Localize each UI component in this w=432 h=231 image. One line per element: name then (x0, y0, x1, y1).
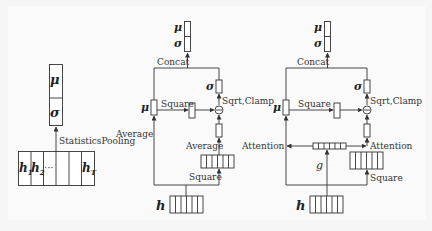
panel3-square-bottom-label: Square (370, 173, 403, 183)
h2-symbol: h2 (31, 162, 45, 179)
panel3-shapes (283, 22, 383, 214)
panel3-attention-right-label: Attention (370, 141, 412, 151)
panel2-square-top-label: Square (161, 99, 194, 109)
panel1-mu-symbol: μ (50, 73, 60, 86)
panel2-output-sigma: σ (174, 38, 182, 49)
panel2-sigma-label: σ (206, 81, 214, 92)
pooling-diagram: μ σ StatisticsPooling h1 h2 ··· hT μ σ C… (0, 0, 432, 231)
h1-base: h (19, 161, 28, 175)
panel3-g-label: g (316, 160, 323, 171)
panel3-output-sigma: σ (314, 38, 322, 49)
diagram-lines (0, 0, 432, 231)
panel2-average-right-label: Average (186, 141, 223, 151)
hT-symbol: hT (82, 162, 96, 179)
panel2-mu-label: μ (141, 102, 149, 113)
panel3-attention-left-label: Attention (242, 141, 284, 151)
hT-base: h (82, 161, 91, 175)
panel2-shapes (151, 22, 234, 214)
panel3-sigma-label: σ (354, 81, 362, 92)
panel2-h-label: h (156, 199, 165, 212)
panel2-sqrt-clamp-label: Sqrt,Clamp (222, 96, 274, 106)
hT-subscript: T (91, 168, 96, 177)
panel2-concat-label: Concat (157, 57, 189, 67)
panel3-sqrt-clamp-label: Sqrt,Clamp (370, 96, 422, 106)
panel3-concat-label: Concat (297, 57, 329, 67)
panel2-square-bottom-label: Square (189, 172, 222, 182)
panel2-average-left-label: Average (116, 129, 153, 139)
panel3-square-top-label: Square (298, 99, 331, 109)
h2-base: h (31, 161, 40, 175)
panel2-output-mu: μ (174, 22, 182, 33)
panel3-h-label: h (296, 199, 305, 212)
panel3-output-mu: μ (314, 22, 322, 33)
ellipsis: ··· (44, 163, 54, 173)
panel3-mu-label: μ (273, 102, 281, 113)
panel1-sigma-symbol: σ (50, 106, 60, 119)
